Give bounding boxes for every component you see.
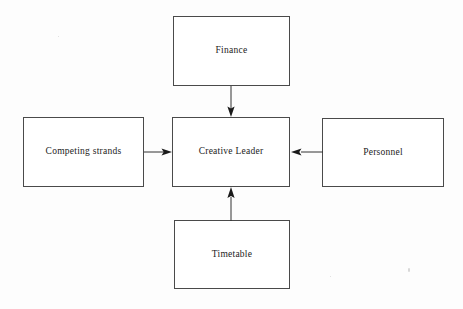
node-competing-strands-label: Competing strands [46, 146, 122, 157]
node-finance[interactable]: Finance [173, 16, 290, 86]
scan-speckle [58, 36, 59, 37]
arrow-finance-to-creative-leader [225, 86, 237, 118]
node-timetable-label: Timetable [212, 249, 252, 260]
node-creative-leader[interactable]: Creative Leader [172, 117, 290, 187]
arrow-personnel-to-creative-leader [290, 146, 323, 158]
arrow-competing-strands-to-creative-leader [144, 146, 173, 158]
arrow-timetable-to-creative-leader [225, 187, 237, 221]
node-creative-leader-label: Creative Leader [199, 146, 264, 157]
node-competing-strands[interactable]: Competing strands [23, 117, 144, 187]
scan-speckle [408, 268, 410, 272]
diagram-canvas: Finance Competing strands Creative Leade… [0, 0, 463, 309]
node-personnel[interactable]: Personnel [322, 118, 444, 187]
scan-speckle [330, 276, 331, 277]
node-timetable[interactable]: Timetable [174, 220, 290, 289]
node-finance-label: Finance [216, 45, 248, 56]
node-personnel-label: Personnel [363, 147, 403, 158]
